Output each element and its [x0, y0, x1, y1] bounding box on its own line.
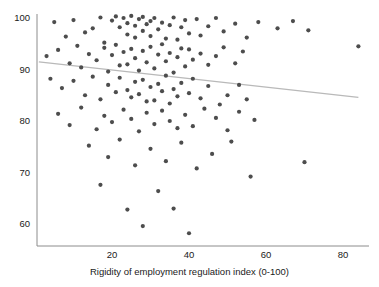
y-tick-label: 60 [4, 219, 30, 229]
data-point [125, 88, 129, 92]
x-tick-label: 40 [174, 250, 204, 260]
data-point [121, 16, 125, 20]
data-point [206, 24, 210, 28]
axis-lines [37, 14, 369, 246]
data-point [52, 20, 56, 24]
data-point [175, 55, 179, 59]
data-point [98, 15, 102, 19]
data-point [356, 44, 360, 48]
data-point [172, 70, 176, 74]
data-point [118, 137, 122, 141]
data-point [160, 21, 164, 25]
data-point [71, 79, 75, 83]
data-point [87, 52, 91, 56]
data-point [98, 183, 102, 187]
data-point [152, 16, 156, 20]
data-point [121, 108, 125, 112]
data-point [222, 29, 226, 33]
data-point [148, 19, 152, 23]
data-point [164, 159, 168, 163]
data-point [79, 65, 83, 69]
data-point [125, 32, 129, 36]
data-point [133, 163, 137, 167]
data-point [114, 90, 118, 94]
data-point [256, 20, 260, 24]
data-point [156, 82, 160, 86]
data-point [206, 84, 210, 88]
data-point [129, 117, 133, 121]
data-point [68, 123, 72, 127]
data-point [168, 101, 172, 105]
data-point [233, 61, 237, 65]
data-point [187, 231, 191, 235]
data-point [125, 62, 129, 66]
data-point [191, 58, 195, 62]
data-point [222, 45, 226, 49]
data-point [133, 56, 137, 60]
y-tick-label: 100 [4, 13, 30, 23]
data-point [102, 41, 106, 45]
data-point [164, 74, 168, 78]
data-point [148, 85, 152, 89]
data-point [141, 49, 145, 53]
data-point [106, 83, 110, 87]
scatter-chart-figure: 10090807060 20406080 Rigidity of employm… [0, 0, 379, 287]
data-point [95, 58, 99, 62]
x-tick-label: 60 [251, 250, 281, 260]
data-point [214, 54, 218, 58]
data-point [114, 14, 118, 18]
data-point [56, 112, 60, 116]
data-point [206, 63, 210, 67]
data-point [175, 126, 179, 130]
data-point [225, 93, 229, 97]
y-tick-label: 70 [4, 168, 30, 178]
data-point [237, 110, 241, 114]
data-point [210, 152, 214, 156]
data-point [118, 25, 122, 29]
data-point [179, 81, 183, 85]
data-point [141, 29, 145, 33]
data-point [133, 80, 137, 84]
data-point [175, 38, 179, 42]
data-point [175, 94, 179, 98]
data-point [118, 76, 122, 80]
data-point [98, 97, 102, 101]
data-point [121, 50, 125, 54]
data-point [106, 69, 110, 73]
data-point [195, 17, 199, 21]
data-point [102, 46, 106, 50]
data-point [95, 127, 99, 131]
data-point [64, 34, 68, 38]
data-point [252, 118, 256, 122]
data-point [179, 141, 183, 145]
x-tick-label: 80 [328, 250, 358, 260]
data-point [133, 24, 137, 28]
data-point [110, 120, 114, 124]
data-point [137, 129, 141, 133]
data-point [79, 106, 83, 110]
trend-line [39, 62, 359, 98]
data-point [164, 59, 168, 63]
data-point [156, 189, 160, 193]
data-point [56, 48, 60, 52]
data-point [118, 63, 122, 67]
data-point [102, 114, 106, 118]
data-point [198, 33, 202, 37]
data-point [241, 49, 245, 53]
data-point [187, 91, 191, 95]
data-point [179, 25, 183, 29]
data-point [164, 37, 168, 41]
data-point [137, 92, 141, 96]
data-point [48, 77, 52, 81]
data-point [145, 99, 149, 103]
data-point [68, 61, 72, 65]
data-point [87, 144, 91, 148]
data-point [148, 147, 152, 151]
data-point [152, 122, 156, 126]
data-point [141, 15, 145, 19]
data-point [91, 26, 95, 30]
data-point [218, 102, 222, 106]
data-point [168, 23, 172, 27]
data-point [133, 35, 137, 39]
data-point [183, 113, 187, 117]
